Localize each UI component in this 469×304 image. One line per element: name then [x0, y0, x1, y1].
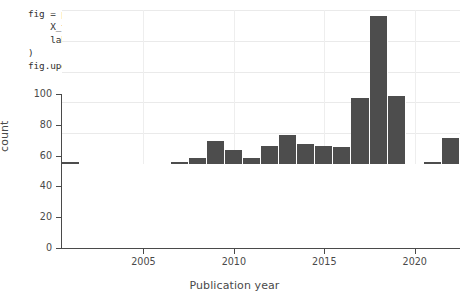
y-axis-tick-label: 100	[16, 89, 52, 99]
gridline-vertical	[415, 10, 416, 164]
x-axis-tick-label: 2020	[403, 256, 427, 267]
y-axis-tick	[56, 125, 61, 126]
x-axis-tick-label: 2010	[222, 256, 246, 267]
x-axis-line	[61, 248, 460, 249]
y-axis-tick	[56, 94, 61, 95]
histogram-bar[interactable]	[189, 158, 207, 164]
histogram-bar[interactable]	[225, 150, 243, 164]
gridline-vertical	[143, 10, 144, 164]
y-axis-tick-label: 20	[16, 212, 52, 222]
gridline-vertical	[324, 10, 325, 164]
histogram-bar[interactable]	[62, 162, 80, 164]
y-axis-tick	[56, 186, 61, 187]
histogram-bar[interactable]	[279, 135, 297, 164]
y-axis-tick-label: 0	[16, 243, 52, 253]
histogram-bar[interactable]	[370, 16, 388, 164]
histogram-bar[interactable]	[315, 146, 333, 164]
histogram-bar[interactable]	[261, 146, 279, 164]
y-axis-title: count	[0, 120, 11, 152]
x-axis-tick	[415, 249, 416, 254]
y-axis-line	[61, 94, 62, 249]
histogram-bar[interactable]	[388, 96, 406, 164]
x-axis-tick	[234, 249, 235, 254]
notebook-cell-output: fig = px.histogram( X_train.loc[X_train[…	[0, 0, 469, 304]
y-axis-tick-label: 60	[16, 151, 52, 161]
y-axis-tick-labels: 020406080100	[16, 0, 52, 304]
gridline-vertical	[234, 10, 235, 164]
y-axis-tick	[56, 217, 61, 218]
histogram-bar[interactable]	[171, 162, 189, 164]
histogram-bar[interactable]	[351, 98, 369, 164]
x-axis-tick-label: 2015	[312, 256, 336, 267]
y-axis-tick-label: 40	[16, 181, 52, 191]
histogram-bar[interactable]	[424, 162, 442, 164]
y-axis-tick	[56, 248, 61, 249]
x-axis-tick	[324, 249, 325, 254]
histogram-bar[interactable]	[297, 144, 315, 164]
histogram-bar[interactable]	[333, 147, 351, 164]
histogram-bar[interactable]	[243, 158, 261, 164]
y-axis-tick	[56, 156, 61, 157]
plot-area	[62, 10, 460, 164]
gridline-horizontal	[62, 41, 460, 42]
gridline-horizontal	[62, 72, 460, 73]
gridline-horizontal	[62, 10, 460, 11]
x-axis-tick	[143, 249, 144, 254]
y-axis-tick-label: 80	[16, 120, 52, 130]
histogram-bar[interactable]	[207, 141, 225, 164]
x-axis-tick-label: 2005	[131, 256, 155, 267]
x-axis-title: Publication year	[0, 279, 469, 292]
histogram-bar[interactable]	[442, 138, 460, 164]
